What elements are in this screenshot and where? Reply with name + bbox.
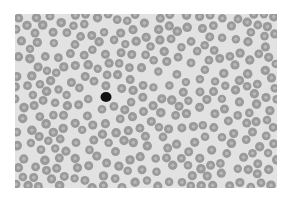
lymphocyte: [101, 92, 112, 102]
cell-field: [15, 14, 277, 188]
blood-smear-micrograph: [15, 14, 277, 188]
